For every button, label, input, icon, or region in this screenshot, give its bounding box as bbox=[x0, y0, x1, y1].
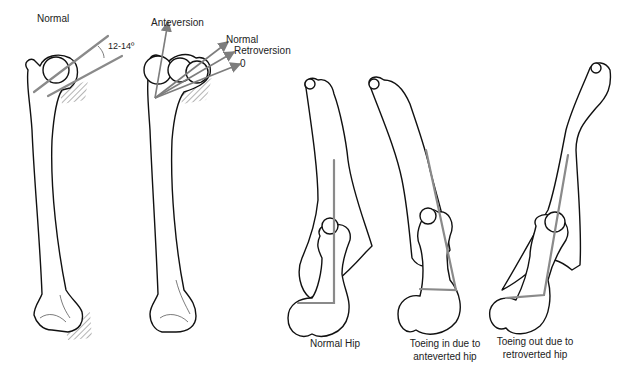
angle-label: 12-14º bbox=[108, 40, 134, 52]
caption-line: anteverted hip bbox=[400, 350, 490, 363]
caption-line: retroverted hip bbox=[487, 348, 583, 361]
normal-femur-title: Normal bbox=[37, 13, 69, 25]
illustration bbox=[0, 0, 631, 373]
retroversion-label: Retroversion bbox=[234, 45, 291, 57]
femoral-version-figure: Normal 12-14º Anteversion Normal Retrove… bbox=[0, 0, 631, 373]
caption-line: Toeing out due to bbox=[487, 335, 583, 348]
caption-normal-hip: Normal Hip bbox=[300, 337, 370, 350]
normal-hip-leg-drawing bbox=[288, 78, 372, 336]
toeing-in-leg-drawing bbox=[369, 77, 460, 334]
anteversion-label: Anteversion bbox=[151, 17, 204, 29]
toeing-out-leg-drawing bbox=[490, 63, 611, 334]
zero-label: 0 bbox=[240, 58, 246, 70]
caption-toeing-out: Toeing out due to retroverted hip bbox=[487, 335, 583, 361]
normal-femur-drawing bbox=[26, 36, 122, 340]
caption-line: Toeing in due to bbox=[400, 337, 490, 350]
version-femur-drawing bbox=[144, 22, 240, 332]
caption-toeing-in: Toeing in due to anteverted hip bbox=[400, 337, 490, 363]
caption-line: Normal Hip bbox=[300, 337, 370, 350]
